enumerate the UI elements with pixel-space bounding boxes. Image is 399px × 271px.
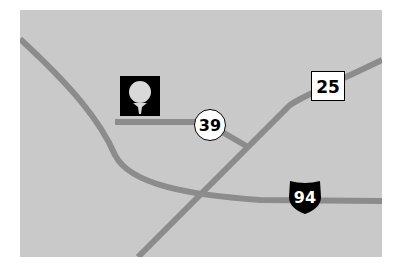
map: 39 25 94 <box>20 10 382 257</box>
route-39-shield: 39 <box>193 108 227 142</box>
golf-ball-on-tee-icon <box>120 76 160 116</box>
road-25 <box>138 60 382 257</box>
route-39-label: 39 <box>199 116 221 135</box>
route-25-label: 25 <box>316 77 340 97</box>
interstate-94-shield: 94 <box>286 178 324 216</box>
interstate-94-label: 94 <box>294 188 316 207</box>
route-25-shield: 25 <box>311 71 345 101</box>
road-39 <box>115 122 248 147</box>
